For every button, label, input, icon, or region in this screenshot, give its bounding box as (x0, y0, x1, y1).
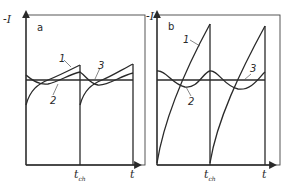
panel-a-y-axis-label: -I (3, 13, 12, 26)
panel-a-curve-label-3: 3 (98, 60, 104, 71)
panel-a-curve-label-1: 1 (59, 53, 65, 64)
panel-b-tch-label: tch (204, 168, 216, 182)
panel-a: -I a 1 2 3 tch t (3, 13, 145, 182)
panel-a-tch-label: tch (74, 168, 86, 182)
diagram: -I a 1 2 3 tch t -I b 1 2 3 tch t (0, 0, 290, 188)
panel-b: -I b 1 2 3 tch t (146, 10, 280, 182)
panel-a-curve-label-2: 2 (50, 95, 56, 106)
panel-b-curve-label-1: 1 (183, 34, 189, 45)
panel-b-x-axis-label: t (262, 168, 267, 181)
panel-b-leader-2 (186, 87, 191, 96)
panel-b-leader-1 (190, 40, 200, 46)
panel-a-frame (26, 15, 145, 165)
panel-b-curve-1-seg-2 (210, 26, 265, 163)
panel-b-frame (157, 15, 280, 165)
panel-b-y-axis-label: -I (146, 10, 155, 23)
panel-a-curve-1-seg-2 (80, 64, 133, 105)
panel-a-x-axis-label: t (130, 168, 135, 181)
panel-a-leader-2 (53, 84, 58, 95)
panel-b-label: b (168, 21, 174, 32)
panel-a-label: a (37, 22, 43, 33)
panel-b-leader-3 (244, 74, 251, 80)
panel-b-curve-label-2: 2 (188, 96, 194, 107)
panel-b-curve-label-3: 3 (250, 63, 256, 74)
